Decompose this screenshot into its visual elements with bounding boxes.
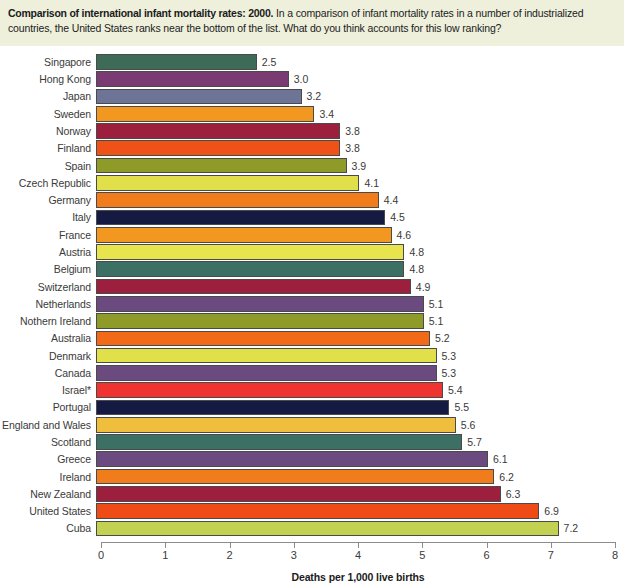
bar bbox=[96, 348, 437, 364]
bar-track: 5.5 bbox=[96, 400, 624, 416]
bar bbox=[96, 434, 462, 450]
bar-track: 3.8 bbox=[96, 140, 624, 156]
bar-category-label: New Zealand bbox=[0, 488, 96, 500]
bar-value-label: 4.1 bbox=[364, 177, 379, 189]
bar-category-label: Japan bbox=[0, 90, 96, 102]
bar-category-label: Austria bbox=[0, 246, 96, 258]
bar-category-label: Portugal bbox=[0, 401, 96, 413]
bar bbox=[96, 417, 456, 433]
bar-category-label: Spain bbox=[0, 160, 96, 172]
bar-track: 5.1 bbox=[96, 313, 624, 329]
bar-category-label: Italy bbox=[0, 211, 96, 223]
bar-value-label: 6.3 bbox=[506, 488, 521, 500]
x-axis: 012345678 bbox=[101, 542, 615, 543]
bar-category-label: Scotland bbox=[0, 436, 96, 448]
bar bbox=[96, 210, 385, 226]
bar-track: 6.1 bbox=[96, 451, 624, 467]
bar-value-label: 7.2 bbox=[564, 522, 579, 534]
bar-track: 5.6 bbox=[96, 417, 624, 433]
bar-value-label: 3.2 bbox=[307, 90, 322, 102]
x-axis-tick bbox=[615, 542, 616, 548]
bar-value-label: 3.9 bbox=[352, 160, 367, 172]
bar-row: New Zealand6.3 bbox=[0, 486, 624, 502]
x-axis-tick-label: 0 bbox=[98, 549, 104, 561]
bar bbox=[96, 71, 289, 87]
bar-track: 6.9 bbox=[96, 503, 624, 519]
bar bbox=[96, 279, 411, 295]
bar-category-label: Switzerland bbox=[0, 281, 96, 293]
bar bbox=[96, 451, 488, 467]
bar-track: 4.6 bbox=[96, 227, 624, 243]
bar-row: Singapore2.5 bbox=[0, 54, 624, 70]
x-axis-tick-label: 1 bbox=[162, 549, 168, 561]
x-axis-title: Deaths per 1,000 live births bbox=[101, 571, 615, 583]
bar-track: 4.9 bbox=[96, 279, 624, 295]
bar-category-label: France bbox=[0, 229, 96, 241]
bar-value-label: 4.9 bbox=[416, 281, 431, 293]
bar-value-label: 5.1 bbox=[429, 315, 444, 327]
bar-value-label: 5.5 bbox=[454, 401, 469, 413]
bar-value-label: 5.3 bbox=[442, 350, 457, 362]
bar-value-label: 5.2 bbox=[435, 332, 450, 344]
bar-category-label: United States bbox=[0, 505, 96, 517]
bar-category-label: Belgium bbox=[0, 263, 96, 275]
bar-row: Japan3.2 bbox=[0, 89, 624, 105]
bar-row: Austria4.8 bbox=[0, 244, 624, 260]
bar-track: 7.2 bbox=[96, 521, 624, 537]
bar-track: 4.4 bbox=[96, 192, 624, 208]
bar-value-label: 6.2 bbox=[499, 471, 514, 483]
bar-category-label: Denmark bbox=[0, 350, 96, 362]
bar bbox=[96, 54, 257, 70]
bar-row: Finland3.8 bbox=[0, 140, 624, 156]
bar-track: 3.8 bbox=[96, 123, 624, 139]
bar-row: Israel*5.4 bbox=[0, 382, 624, 398]
bar-rows: Singapore2.5Hong Kong3.0Japan3.2Sweden3.… bbox=[0, 54, 624, 538]
bar bbox=[96, 89, 302, 105]
bar-track: 3.2 bbox=[96, 89, 624, 105]
bar bbox=[96, 503, 539, 519]
bar bbox=[96, 486, 501, 502]
bar-category-label: Ireland bbox=[0, 471, 96, 483]
bar-value-label: 2.5 bbox=[262, 56, 277, 68]
bar-track: 4.8 bbox=[96, 261, 624, 277]
bar bbox=[96, 123, 340, 139]
caption-title: Comparison of international infant morta… bbox=[8, 7, 273, 19]
bar bbox=[96, 175, 359, 191]
bar-category-label: Hong Kong bbox=[0, 73, 96, 85]
bar-category-label: Israel* bbox=[0, 384, 96, 396]
bar-category-label: Greece bbox=[0, 453, 96, 465]
bar-row: France4.6 bbox=[0, 227, 624, 243]
bar-track: 6.3 bbox=[96, 486, 624, 502]
bar-value-label: 5.1 bbox=[429, 298, 444, 310]
bar-track: 3.0 bbox=[96, 71, 624, 87]
bar-value-label: 4.5 bbox=[390, 211, 405, 223]
bar-row: Ireland6.2 bbox=[0, 469, 624, 485]
bar-row: Germany4.4 bbox=[0, 192, 624, 208]
bar-row: Portugal5.5 bbox=[0, 400, 624, 416]
bar-value-label: 3.8 bbox=[345, 125, 360, 137]
x-axis-tick-label: 8 bbox=[612, 549, 618, 561]
bar bbox=[96, 469, 494, 485]
bar-row: Norway3.8 bbox=[0, 123, 624, 139]
bar-track: 4.5 bbox=[96, 210, 624, 226]
bar-row: Cuba7.2 bbox=[0, 521, 624, 537]
bar-row: Nothern Ireland5.1 bbox=[0, 313, 624, 329]
bar bbox=[96, 158, 347, 174]
bar-chart: Singapore2.5Hong Kong3.0Japan3.2Sweden3.… bbox=[0, 46, 624, 556]
bar-value-label: 5.6 bbox=[461, 419, 476, 431]
bar-category-label: Norway bbox=[0, 125, 96, 137]
bar bbox=[96, 140, 340, 156]
bar bbox=[96, 261, 404, 277]
bar-category-label: Nothern Ireland bbox=[0, 315, 96, 327]
bar-row: Italy4.5 bbox=[0, 210, 624, 226]
bar-row: Greece6.1 bbox=[0, 451, 624, 467]
bar-category-label: Australia bbox=[0, 332, 96, 344]
bar-value-label: 3.4 bbox=[319, 108, 334, 120]
x-axis-tick bbox=[487, 542, 488, 548]
bar-value-label: 4.8 bbox=[409, 263, 424, 275]
bar bbox=[96, 331, 430, 347]
bar-track: 5.3 bbox=[96, 348, 624, 364]
bar bbox=[96, 382, 443, 398]
bar-track: 5.1 bbox=[96, 296, 624, 312]
x-axis-tick bbox=[165, 542, 166, 548]
